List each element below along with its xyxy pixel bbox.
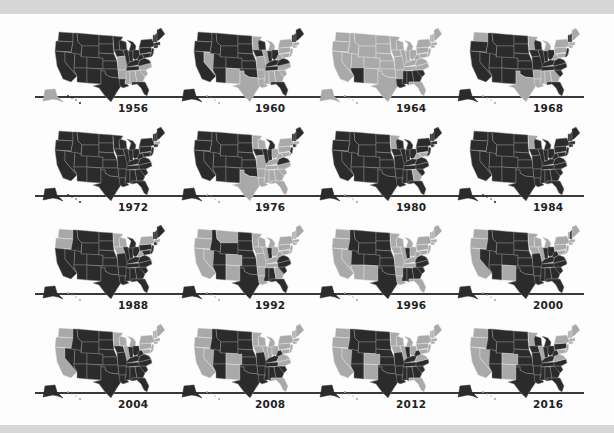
state-OR — [332, 41, 350, 52]
state-AR — [118, 366, 127, 375]
state-WA — [335, 328, 350, 338]
us-map — [468, 225, 586, 309]
state-CO — [226, 57, 242, 69]
state-WY — [220, 243, 238, 255]
state-NM — [87, 68, 101, 84]
state-OR — [470, 238, 488, 249]
state-WY — [81, 243, 99, 255]
state-AR — [118, 267, 127, 276]
year-label: 2000 — [533, 299, 563, 311]
state-NM — [502, 364, 516, 380]
state-RI — [296, 341, 297, 344]
state-MA — [154, 239, 160, 242]
state-MA — [569, 239, 575, 242]
state-HI — [344, 292, 346, 294]
state-HI — [214, 198, 215, 199]
state-AK — [320, 89, 340, 102]
state-FL — [271, 82, 288, 96]
state-AK — [182, 89, 202, 102]
state-ND — [514, 35, 528, 44]
state-SD — [376, 143, 391, 153]
state-AR — [533, 267, 542, 276]
state-ME — [296, 28, 304, 41]
year-label: 1992 — [255, 299, 285, 311]
state-RI — [572, 341, 573, 344]
state-HI — [67, 391, 69, 393]
state-WY — [496, 145, 514, 157]
state-KS — [103, 61, 118, 69]
state-WA — [58, 32, 73, 42]
state-NY — [416, 138, 432, 147]
state-CT — [569, 144, 572, 147]
map-1980 — [330, 127, 460, 222]
state-WA — [473, 131, 488, 141]
state-RI — [157, 242, 158, 245]
us-map — [192, 127, 310, 211]
state-CO — [87, 156, 103, 168]
state-HI — [75, 99, 76, 100]
state-OR — [194, 238, 212, 249]
state-AK — [182, 286, 202, 299]
state-CO — [364, 156, 380, 168]
state-WA — [473, 328, 488, 338]
state-CT — [293, 341, 296, 344]
state-AK — [458, 188, 478, 201]
state-OR — [470, 140, 488, 151]
state-ME — [434, 225, 442, 238]
state-HI — [79, 398, 81, 400]
state-WA — [335, 229, 350, 239]
state-NY — [554, 138, 570, 147]
state-ND — [376, 232, 390, 241]
state-KS — [242, 61, 257, 69]
state-WA — [473, 32, 488, 42]
state-NM — [502, 167, 516, 183]
state-FL — [271, 378, 288, 392]
state-CO — [87, 254, 103, 266]
state-MT — [354, 33, 376, 46]
state-AK — [458, 89, 478, 102]
state-FL — [409, 279, 426, 293]
us-map — [53, 127, 171, 211]
state-WI — [119, 139, 127, 149]
state-CO — [502, 254, 518, 266]
state-WY — [81, 145, 99, 157]
state-CT — [154, 341, 157, 344]
state-SD — [99, 143, 114, 153]
state-WA — [58, 229, 73, 239]
us-map — [192, 225, 310, 309]
state-AK — [182, 385, 202, 398]
state-KS — [518, 357, 533, 365]
state-HI — [71, 97, 73, 99]
state-HI — [494, 398, 496, 400]
state-NH — [155, 230, 157, 239]
us-map — [53, 324, 171, 408]
state-VT — [430, 134, 432, 141]
year-label: 1976 — [255, 201, 285, 213]
state-NM — [226, 167, 240, 183]
year-label: 2012 — [396, 398, 426, 410]
state-HI — [206, 95, 208, 97]
state-MA — [154, 338, 160, 341]
year-label: 1972 — [118, 201, 148, 213]
year-label: 1984 — [533, 201, 563, 213]
state-NM — [87, 167, 101, 183]
state-KS — [103, 357, 118, 365]
state-VT — [430, 35, 432, 42]
state-KS — [103, 258, 118, 266]
state-MT — [77, 329, 99, 342]
state-CO — [502, 156, 518, 168]
state-AR — [395, 267, 404, 276]
state-CO — [87, 353, 103, 365]
year-label: 1988 — [118, 299, 148, 311]
state-MT — [492, 230, 514, 243]
state-RI — [296, 45, 297, 48]
state-CO — [226, 254, 242, 266]
state-FL — [132, 181, 149, 195]
state-OR — [332, 140, 350, 151]
state-HI — [79, 102, 81, 104]
state-MT — [77, 132, 99, 145]
state-CT — [431, 45, 434, 48]
state-WA — [58, 328, 73, 338]
state-NY — [278, 138, 294, 147]
state-WI — [258, 237, 266, 247]
